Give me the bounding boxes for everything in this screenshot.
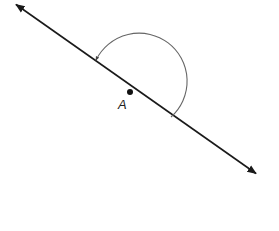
point-a-label: A [118, 97, 127, 112]
point-a-dot [127, 89, 133, 95]
angle-arc [96, 33, 187, 117]
angle-diagram [0, 0, 279, 231]
straight-line [16, 5, 256, 174]
